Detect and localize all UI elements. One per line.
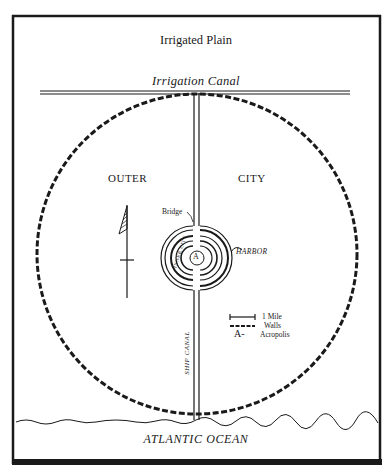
bridge-pointer (187, 212, 193, 222)
irrigated-plain-label: Irrigated Plain (0, 33, 392, 48)
legend-scale-label: 1 Mile (262, 312, 282, 321)
outer-label: OUTER (108, 172, 147, 184)
legend-walls-label: Walls (264, 321, 281, 330)
atlantic-ocean-label: ATLANTIC OCEAN (0, 432, 392, 447)
irrigation-canal-label: Irrigation Canal (0, 74, 392, 89)
city-label: CITY (238, 172, 266, 184)
legend-acropolis-label: Acropolis (260, 330, 290, 339)
map-drawing: A- (0, 0, 392, 474)
legend-symbols: A- (230, 314, 255, 339)
harbor-label: HARBOR (236, 247, 268, 256)
svg-text:A-: A- (234, 328, 245, 339)
ship-canal-label: SHIP CANAL (183, 331, 191, 375)
bridge-label: Bridge (162, 207, 182, 216)
acropolis-marker: A (193, 252, 199, 261)
north-arrow-icon (119, 205, 134, 298)
